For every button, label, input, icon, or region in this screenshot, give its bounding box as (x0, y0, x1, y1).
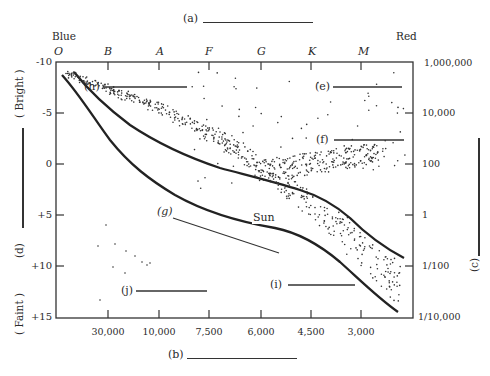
bottom-tick-10000: 10,000 (134, 326, 184, 337)
region-label-g: (g) (157, 205, 173, 218)
region-label-h: (h) (84, 80, 100, 93)
region-label-f: (f) (316, 133, 329, 146)
sun-label: Sun (252, 211, 276, 224)
region-label-e: (e) (315, 80, 330, 93)
spectral-class-b: B (104, 45, 112, 58)
spectral-class-f: F (205, 45, 213, 58)
bright-label: ( Bright ) (13, 69, 25, 118)
right-tick-1000000: 1,000,000 (424, 57, 472, 68)
spectral-class-o: O (54, 45, 63, 58)
right-axis-blank-line[interactable] (478, 138, 480, 256)
region-label-i: (i) (270, 278, 282, 291)
left-axis-blank-label: (d) (13, 243, 25, 258)
bottom-tick-30000: 30,000 (83, 326, 133, 337)
right-tick-1: 1 (422, 209, 428, 220)
spectral-class-k: K (308, 45, 316, 58)
x-axis-blank-line[interactable] (187, 350, 297, 359)
spectral-class-a: A (156, 45, 164, 58)
right-tick-1-10000: 1/10,000 (418, 311, 461, 322)
left-axis-blank-line[interactable] (22, 128, 24, 228)
right-tick-10000: 10,000 (422, 107, 455, 118)
title-blank-line[interactable] (203, 14, 313, 23)
right-tick-100: 100 (422, 158, 440, 169)
left-tick-plus10: +10 (18, 260, 52, 271)
right-tick-1-100: 1/100 (422, 260, 449, 271)
hr-diagram-plot (0, 0, 490, 376)
region-label-j: (j) (121, 284, 133, 297)
spectral-class-g: G (257, 45, 266, 58)
spectral-class-m: M (358, 45, 369, 58)
bottom-tick-3000: 3,000 (336, 326, 386, 337)
title-blank-label: (a) (183, 12, 198, 25)
bottom-tick-4500: 4,500 (286, 326, 336, 337)
bottom-tick-7500: 7,500 (184, 326, 234, 337)
blue-label: Blue (52, 30, 76, 42)
left-tick-minus10: -10 (18, 56, 52, 67)
bottom-tick-6000: 6,000 (236, 326, 286, 337)
faint-label: ( Faint ) (13, 293, 25, 335)
red-label: Red (396, 30, 417, 42)
x-axis-blank-label: (b) (168, 348, 184, 361)
right-axis-blank-label: (c) (468, 258, 480, 272)
